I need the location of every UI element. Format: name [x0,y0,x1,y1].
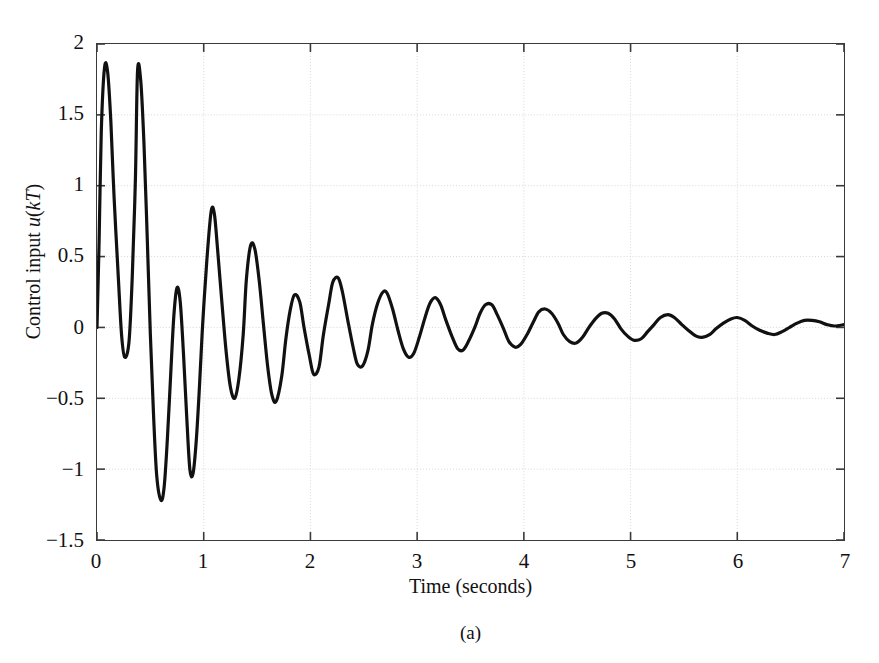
x-tick-label: 7 [815,551,875,572]
y-axis-title-paren-close: ) [22,184,44,191]
grid-lines [97,44,844,540]
y-axis-title-symbol-u: u [22,217,44,227]
figure-caption: (a) [96,622,845,644]
figure-panel: 21.510.50−0.5−1−1.5 01234567 Control inp… [0,0,879,663]
x-tick-label: 1 [173,551,233,572]
y-axis-title: Control input u(kT) [22,82,45,442]
data-series-line [97,63,844,501]
data-series-group [97,63,844,501]
x-tick-label: 0 [66,551,126,572]
y-tick-label: 2 [0,32,84,53]
y-axis-title-symbol-kt: kT [22,190,44,210]
x-tick-label: 2 [280,551,340,572]
x-tick-label: 3 [387,551,447,572]
y-axis-title-prefix: Control input [22,227,44,339]
tick-marks [97,44,844,540]
y-tick-label: −1 [0,459,84,480]
x-axis-title: Time (seconds) [96,575,845,598]
plot-canvas [97,44,844,540]
x-tick-label: 6 [708,551,768,572]
x-tick-label: 5 [601,551,661,572]
y-axis-title-paren-open: ( [22,210,44,217]
y-tick-label: −1.5 [0,530,84,551]
x-tick-label: 4 [494,551,554,572]
plot-area [96,43,845,541]
